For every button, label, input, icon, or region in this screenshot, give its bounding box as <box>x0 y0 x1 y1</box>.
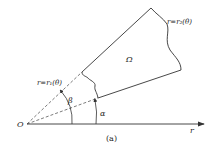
axis-r-label: r <box>190 126 195 135</box>
inner-curve-label: r=r₁(θ) <box>37 79 62 87</box>
ray-alpha-dashed <box>27 98 98 124</box>
polar-region-diagram: Ω r=r₂(θ) r=r₁(θ) β α O r (a) <box>0 0 217 153</box>
angle-beta-label: β <box>67 96 73 105</box>
region-omega-label: Ω <box>125 55 133 64</box>
origin-label: O <box>17 120 24 129</box>
angle-alpha-label: α <box>100 109 106 118</box>
figure-caption: (a) <box>106 134 117 143</box>
outer-curve-label: r=r₂(θ) <box>167 18 192 26</box>
alpha-angle-arc <box>95 100 97 124</box>
